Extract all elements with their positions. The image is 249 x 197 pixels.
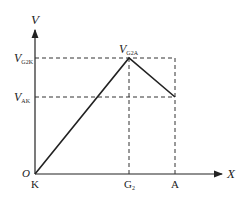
k-label: K [31,178,39,190]
v-g2a-label: VG2A [119,42,139,56]
x-axis-label: X [226,166,236,181]
potential-curve [35,58,175,174]
potential-diagram: V X O VG2K VAK VG2A K G2 A [0,0,249,197]
a-label: A [171,178,179,190]
g2-label: G2 [124,178,135,191]
v-g2k-label: VG2K [14,51,34,65]
v-ak-label: VAK [14,90,31,104]
y-axis-label: V [31,12,41,27]
origin-label: O [22,167,30,179]
